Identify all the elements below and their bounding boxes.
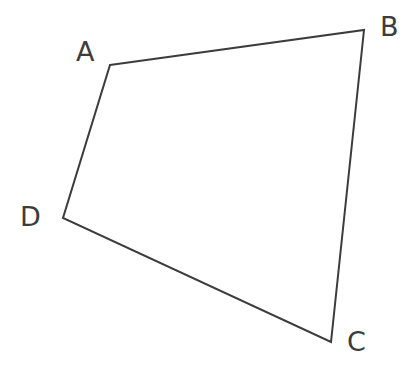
vertex-label-c: C (347, 328, 366, 355)
vertex-label-d: D (20, 203, 41, 230)
vertex-label-b: B (380, 13, 399, 40)
vertex-label-a: A (76, 38, 95, 65)
quadrilateral-diagram (0, 0, 409, 368)
figure-canvas: A B C D (0, 0, 409, 368)
quadrilateral-abcd-outline (63, 30, 364, 342)
